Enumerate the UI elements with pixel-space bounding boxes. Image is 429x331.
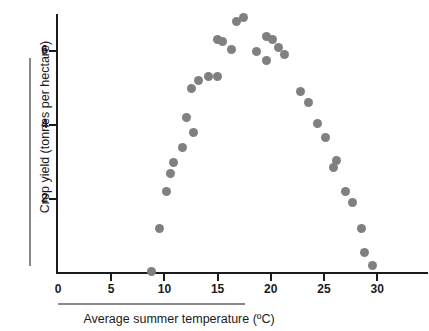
data-point (252, 47, 261, 56)
x-tick-label: 20 (259, 283, 283, 295)
data-point (213, 72, 222, 81)
x-tick-mark (110, 274, 112, 281)
data-point (321, 133, 330, 142)
data-point (162, 187, 171, 196)
data-point (348, 198, 357, 207)
data-point (341, 187, 350, 196)
x-tick-mark (270, 274, 272, 281)
x-tick-label: 25 (312, 283, 336, 295)
data-point (239, 13, 248, 22)
data-point (187, 84, 196, 93)
x-tick-mark (163, 274, 165, 281)
cropped-text-fragment (55, 0, 275, 6)
y-axis-line (56, 14, 58, 274)
data-point (189, 128, 198, 137)
data-point (204, 72, 213, 81)
data-point (227, 45, 236, 54)
data-point (155, 224, 164, 233)
x-axis-title: Average summer temperature (ºC) (56, 312, 302, 326)
data-point (182, 113, 191, 122)
x-tick-mark (217, 274, 219, 281)
x-tick-mark (376, 274, 378, 281)
data-point (280, 50, 289, 59)
x-tick-label: 0 (46, 283, 70, 295)
x-tick-label: 15 (206, 283, 230, 295)
x-axis-title-rule (58, 303, 245, 305)
data-point (360, 248, 369, 257)
x-tick-label: 30 (365, 283, 389, 295)
data-point (194, 76, 203, 85)
data-point (357, 224, 366, 233)
data-point (178, 143, 187, 152)
data-point (147, 267, 156, 276)
scatter-chart-figure: 246 051015202530 Crop yield (tonnes per … (0, 0, 429, 331)
data-point (368, 261, 377, 270)
data-point (169, 158, 178, 167)
x-tick-mark (323, 274, 325, 281)
data-point (218, 37, 227, 46)
data-point (304, 98, 313, 107)
data-point (166, 169, 175, 178)
y-axis-title: Crop yield (tonnes per hectare) (38, 2, 52, 252)
data-point (296, 87, 305, 96)
data-point (262, 56, 271, 65)
x-tick-label: 10 (152, 283, 176, 295)
data-point (313, 119, 322, 128)
data-point (332, 156, 341, 165)
y-axis-title-rule (29, 58, 31, 266)
x-tick-label: 5 (99, 283, 123, 295)
